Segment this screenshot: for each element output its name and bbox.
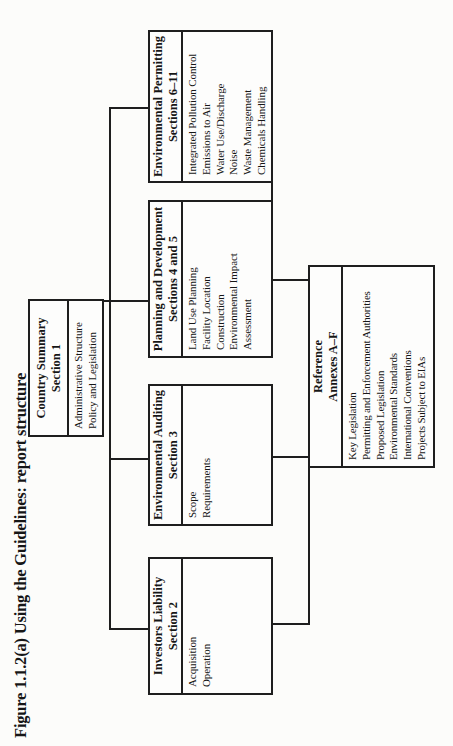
box-title: Environmental Auditing [151,388,166,522]
list-item: Environmental Impact [227,207,241,350]
connector-stub-auditing-reference [271,456,310,458]
box-reference: Reference Annexes A–F Key Legislation Pe… [308,265,435,468]
connector-stub-investors-top [109,628,148,630]
list-item: Construction [214,207,228,350]
box-planning-development: Planning and Development Sections 4 and … [148,200,273,358]
list-item: Assessment [241,207,255,350]
list-item: Emissions to Air [200,37,214,175]
list-item: Facility Location [200,207,214,350]
box-subtitle: Section 2 [166,561,181,691]
box-investors-liability: Investors Liability Section 2 Acquisitio… [148,557,273,695]
connector-reference-left [308,466,310,625]
connector-stub-auditing-top [109,458,148,460]
connector-bus-top [109,107,111,630]
box-environmental-auditing-body: Scope Requirements [183,386,271,524]
box-investors-liability-header: Investors Liability Section 2 [150,559,183,693]
box-title: Reference [311,269,326,464]
box-country-summary: Country Summary Section 1 Administrative… [28,299,104,437]
connector-trunk-country-planning [101,300,148,302]
document-page: Figure 1.1.2(a) Using the Guidelines: re… [0,0,453,746]
box-title: Environmental Permitting [151,34,166,179]
list-item: Chemicals Handling [255,37,269,175]
list-item: Requirements [200,391,214,518]
list-item: Projects Subject to EIAs [415,272,429,460]
box-environmental-auditing-header: Environmental Auditing Section 3 [150,386,183,524]
connector-stub-investors-reference [271,623,310,625]
list-item: Proposed Legislation [374,272,388,460]
box-title: Investors Liability [151,561,166,691]
list-item: Key Legislation [346,272,360,460]
list-item: Land Use Planning [186,207,200,350]
box-country-summary-header: Country Summary Section 1 [30,301,69,435]
box-country-summary-body: Administrative Structure Policy and Legi… [69,301,102,435]
list-item: Administrative Structure [72,306,86,429]
box-planning-development-header: Planning and Development Sections 4 and … [150,202,183,356]
box-environmental-permitting-header: Environmental Permitting Sections 6–11 [150,32,183,181]
box-subtitle: Annexes A–F [326,269,341,464]
diagram-canvas: Figure 1.1.2(a) Using the Guidelines: re… [0,0,453,746]
connector-stub-planning-reference [271,279,310,281]
box-planning-development-body: Land Use Planning Facility Location Cons… [183,202,271,356]
list-item: Noise [227,37,241,175]
box-subtitle: Sections 4 and 5 [166,204,181,354]
list-item: Policy and Legislation [86,306,100,429]
list-item: Scope [186,391,200,518]
list-item: Integrated Pollution Control [186,37,200,175]
list-item: Waste Management [241,37,255,175]
box-subtitle: Section 3 [166,388,181,522]
connector-stub-permitting-top [109,107,148,109]
list-item: Operation [200,564,214,687]
box-reference-header: Reference Annexes A–F [310,267,343,466]
box-environmental-permitting: Environmental Permitting Sections 6–11 I… [148,30,273,183]
list-item: Water Use/Discharge [214,37,228,175]
box-title: Planning and Development [151,204,166,354]
list-item: Environmental Standards [387,272,401,460]
list-item: Acquisition [186,564,200,687]
list-item: International Conventions [401,272,415,460]
box-environmental-permitting-body: Integrated Pollution Control Emissions t… [183,32,271,181]
box-reference-body: Key Legislation Permitting and Enforceme… [343,267,433,466]
list-item: Permitting and Enforcement Authorities [360,272,374,460]
box-subtitle: Section 1 [49,303,64,433]
box-environmental-auditing: Environmental Auditing Section 3 Scope R… [148,384,273,526]
box-title: Country Summary [34,303,49,433]
box-investors-liability-body: Acquisition Operation [183,559,271,693]
box-subtitle: Sections 6–11 [166,34,181,179]
